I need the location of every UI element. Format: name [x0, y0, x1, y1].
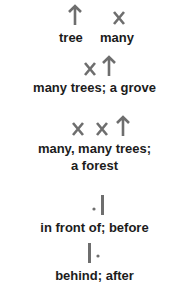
dot-icon [92, 207, 96, 211]
label-forest-line2: a forest [0, 158, 189, 173]
label-grove: many trees; a grove [0, 80, 189, 95]
x-icon [96, 122, 108, 136]
many-x-icon [113, 11, 125, 25]
dot-icon [96, 254, 100, 258]
label-after: behind; after [0, 268, 189, 283]
tree-arrow-icon [102, 55, 116, 77]
tree-arrow-icon [68, 4, 82, 26]
label-forest-line1: many, many trees; [0, 141, 189, 156]
tree-arrow-icon [116, 115, 130, 137]
x-icon [72, 122, 84, 136]
word-tree: tree [59, 30, 83, 45]
label-before: in front of; before [0, 220, 189, 235]
bar-icon [101, 195, 105, 215]
x-icon [84, 62, 96, 76]
bar-icon [88, 243, 92, 263]
word-many: many [100, 30, 134, 45]
